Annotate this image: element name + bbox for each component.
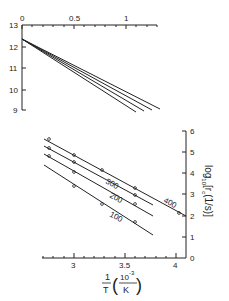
xlabel-unit-exp: -3 (129, 270, 135, 276)
tick-label: 3.5 (119, 261, 131, 270)
tick-label: 1 (124, 14, 129, 23)
xlabel-denominator: T (103, 285, 109, 295)
tick-label: 12 (9, 43, 18, 52)
ylabel-text: log10[rc(1/s)] (201, 165, 214, 217)
tick-label: 13 (9, 21, 18, 30)
bottom-chart-labels: 6 5 4 3 2 1 0 3 3.5 4 400 300 200 100 (71, 127, 195, 270)
xlabel-unit-den: K (123, 285, 129, 295)
paren-right: ) (136, 275, 142, 295)
top-series-line (22, 39, 152, 110)
tick-label: 2 (190, 212, 195, 221)
top-series-line (22, 39, 144, 111)
tick-label: 9 (13, 106, 18, 115)
top-chart (22, 25, 160, 112)
xlabel-numerator: 1 (105, 272, 110, 282)
tick-label: 6 (190, 127, 195, 136)
top-series-line (22, 39, 136, 112)
figure: 0 0.5 1 13 12 11 10 9 6 5 (0, 0, 229, 301)
series-label-400: 400 (162, 196, 178, 210)
series-200-line (44, 154, 153, 216)
top-series-line (22, 39, 160, 109)
tick-label: 3 (71, 261, 76, 270)
tick-label: 5 (190, 148, 195, 157)
tick-label: 1 (190, 233, 195, 242)
tick-label: 4 (173, 261, 178, 270)
tick-label: 0 (190, 254, 195, 263)
tick-label: 0.5 (69, 14, 81, 23)
x-axis-label: 1 T ( 10 -3 K ) (102, 270, 142, 295)
tick-label: 3 (190, 190, 195, 199)
series-label-100: 100 (108, 210, 124, 224)
series-label-200: 200 (108, 191, 124, 205)
y-axis-label: log10[rc(1/s)] (201, 165, 214, 217)
paren-left: ( (112, 275, 118, 295)
tick-label: 4 (190, 169, 195, 178)
tick-label: 0 (20, 14, 25, 23)
tick-label: 10 (9, 86, 18, 95)
tick-label: 11 (9, 64, 18, 73)
